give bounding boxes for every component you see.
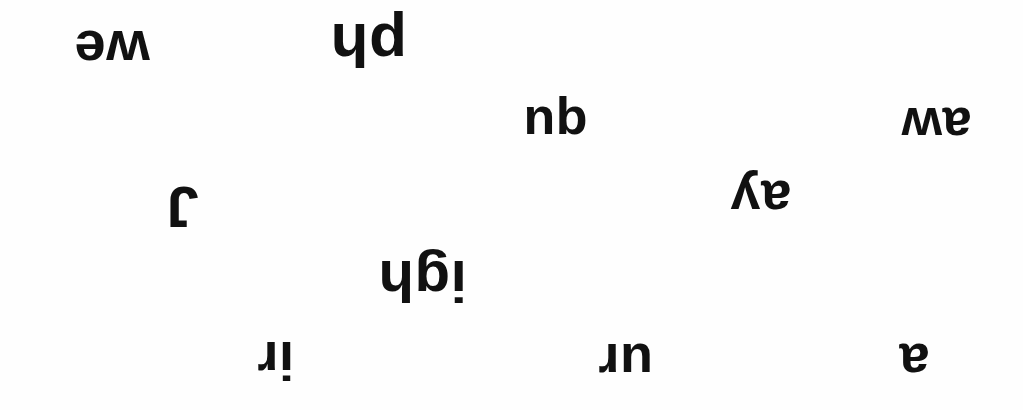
frag-j: J [166,178,199,236]
frag-we: we [74,22,150,78]
frag-ir: ir [257,334,294,388]
frag-aw: aw [901,100,971,152]
frag-a: a [899,336,930,390]
frag-igh: igh [378,252,467,310]
worksheet-canvas: wephquawJayighirura [0,0,1023,410]
frag-ph: ph [330,14,407,76]
frag-ay: ay [730,173,791,227]
frag-ur: ur [598,336,653,390]
frag-qu: qu [523,99,588,151]
